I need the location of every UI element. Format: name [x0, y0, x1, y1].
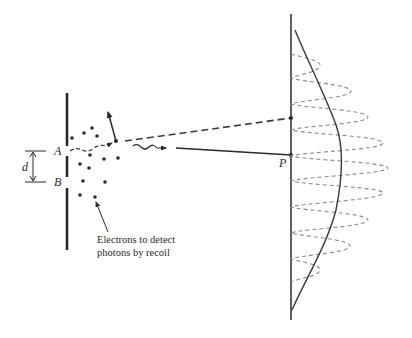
recoil-arrow: [108, 112, 116, 141]
incoming-photon-path: [70, 143, 112, 151]
separation-label: d: [22, 160, 29, 174]
electron-cloud: [70, 126, 120, 199]
original-path-dashed: [125, 118, 291, 141]
deflected-path: [176, 148, 291, 155]
screen-point-upper: [289, 116, 293, 120]
slit-b-label: B: [54, 175, 62, 189]
double-slit-diagram: A B d P: [0, 0, 412, 338]
separation-dimension: [25, 151, 46, 182]
probability-envelope: [292, 30, 342, 310]
point-p-label: P: [278, 156, 287, 170]
caption-line-2: photons by recoil: [97, 247, 170, 258]
scattered-photon-wave: [133, 145, 166, 149]
interference-pattern: [291, 54, 388, 282]
caption-pointer: [96, 202, 108, 232]
slit-a-label: A: [53, 144, 62, 158]
caption-line-1: Electrons to detect: [97, 234, 175, 245]
